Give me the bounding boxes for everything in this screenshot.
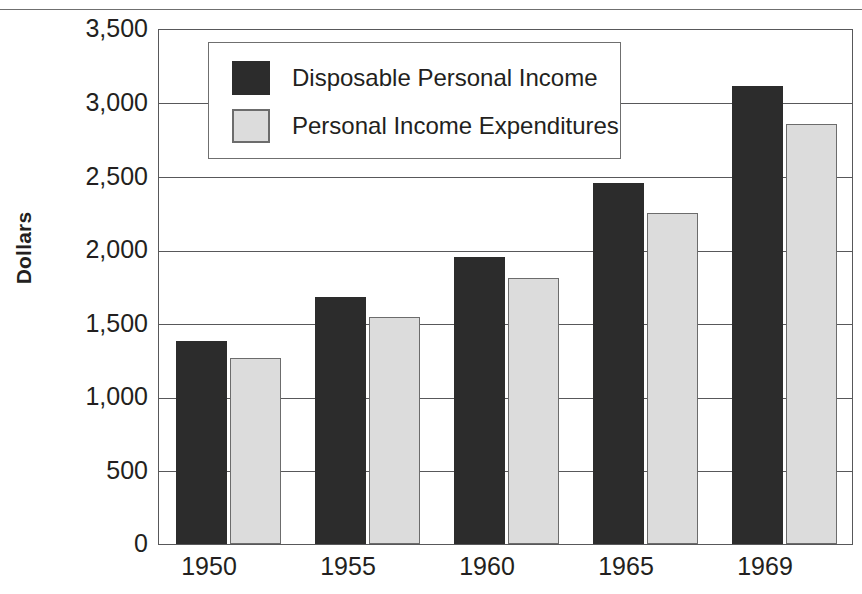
y-tick-label-2500: 2,500	[28, 164, 148, 189]
bar-1950-personal-income-expenditures[interactable]	[230, 358, 281, 544]
y-tick-label-3000: 3,000	[28, 90, 148, 115]
bar-1950-disposable-personal-income[interactable]	[176, 341, 227, 544]
x-tick-label-1955: 1955	[278, 552, 418, 580]
x-tick-label-1969: 1969	[695, 552, 835, 580]
x-tick-label-1965: 1965	[556, 552, 696, 580]
y-tick-label-2000: 2,000	[28, 237, 148, 262]
light-swatch-icon	[232, 109, 270, 143]
y-tick-label-1500: 1,500	[28, 311, 148, 336]
y-tick-label-3500: 3,500	[28, 16, 148, 41]
legend-label-personal-income-expenditures: Personal Income Expenditures	[292, 113, 619, 139]
x-tick-label-1950: 1950	[139, 552, 279, 580]
bar-1965-disposable-personal-income[interactable]	[593, 183, 644, 544]
bar-1969-disposable-personal-income[interactable]	[732, 86, 783, 544]
bar-1965-personal-income-expenditures[interactable]	[647, 213, 698, 544]
y-tick-label-500: 500	[28, 458, 148, 483]
chart-legend: Disposable Personal Income Personal Inco…	[208, 42, 621, 159]
y-tick-label-1000: 1,000	[28, 384, 148, 409]
y-tick-label-0: 0	[28, 531, 148, 556]
legend-label-disposable-personal-income: Disposable Personal Income	[292, 65, 598, 91]
bar-chart-figure: Dollars 3,500 3,000 2,500 2,000 1,500 1,…	[0, 0, 862, 594]
plot-area: Disposable Personal Income Personal Inco…	[158, 29, 853, 545]
bar-1960-personal-income-expenditures[interactable]	[508, 278, 559, 544]
bar-1955-disposable-personal-income[interactable]	[315, 297, 366, 544]
page-top-rule	[0, 9, 862, 10]
bar-1955-personal-income-expenditures[interactable]	[369, 317, 420, 544]
legend-item-personal-income-expenditures: Personal Income Expenditures	[232, 102, 620, 150]
x-tick-label-1960: 1960	[417, 552, 557, 580]
bar-1960-disposable-personal-income[interactable]	[454, 257, 505, 544]
bar-1969-personal-income-expenditures[interactable]	[786, 124, 837, 544]
dark-swatch-icon	[232, 61, 270, 95]
legend-item-disposable-personal-income: Disposable Personal Income	[232, 54, 620, 102]
